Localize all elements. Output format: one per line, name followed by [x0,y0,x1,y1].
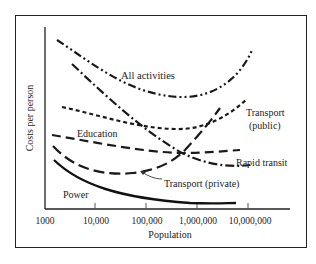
x-tick-label-1000000: 1,000,000 [179,216,217,226]
label-transport-private: Transport (private) [164,178,239,190]
label-power: Power [63,189,89,200]
label-rapid-transit: Rapid transit [236,157,288,168]
label-education: Education [77,128,118,139]
x-tick-label-10000000: 10,000,000 [229,216,272,226]
transport-private-arrow [142,172,162,179]
x-axis-title: Population [148,229,191,240]
chart-svg: All activities Transport (public) Educat… [0,0,316,264]
series-transport-public [62,100,246,129]
label-all-activities: All activities [121,70,175,81]
y-axis-title: Costs per person [24,85,35,152]
label-transport-public-line1: Transport [246,107,285,118]
series-transport-private [53,108,220,174]
x-tick-label-1000: 1000 [36,216,55,226]
series-all-activities [57,40,252,97]
label-transport-public-line2: (public) [249,120,281,132]
x-tick-label-10000: 10,000 [83,216,109,226]
x-tick-label-100000: 100,000 [132,216,163,226]
